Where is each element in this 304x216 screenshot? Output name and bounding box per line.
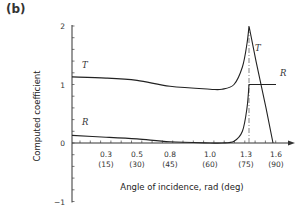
x-tick-label-rad: 0.3 bbox=[100, 150, 112, 159]
series-label-R: R bbox=[279, 68, 287, 78]
series-label-R: R bbox=[81, 117, 89, 127]
x-tick-label-deg: (45) bbox=[162, 160, 177, 169]
series-label-T: T bbox=[82, 60, 89, 70]
x-tick-label-rad: 1.6 bbox=[270, 150, 282, 159]
x-axis-arrow-icon bbox=[288, 141, 295, 146]
x-tick-label-rad: 1.0 bbox=[204, 150, 216, 159]
x-tick-label-deg: (75) bbox=[238, 160, 253, 169]
curves: TTRR bbox=[72, 26, 287, 143]
x-axis-title: Angle of incidence, rad (deg) bbox=[120, 182, 243, 192]
x-tick-label-deg: (60) bbox=[202, 160, 217, 169]
x-tick-label-deg: (90) bbox=[268, 160, 283, 169]
x-tick-label-rad: 0.8 bbox=[164, 150, 176, 159]
y-tick-label: −1 bbox=[54, 198, 65, 207]
y-tick-label: 2 bbox=[60, 22, 65, 31]
axes bbox=[72, 25, 295, 203]
y-tick-label: 0 bbox=[60, 139, 65, 148]
x-tick-label-deg: (15) bbox=[98, 160, 113, 169]
x-tick-label-rad: 0.5 bbox=[131, 150, 143, 159]
x-tick-label-deg: (30) bbox=[129, 160, 144, 169]
y-axis-title: Computed coefficient bbox=[32, 70, 42, 162]
series-R-curve bbox=[72, 85, 276, 144]
series-T-curve bbox=[72, 26, 273, 143]
chart-svg: 210−10.3(15)0.5(30)0.8(45)1.0(60)1.3(75)… bbox=[0, 0, 304, 216]
y-tick-label: 1 bbox=[60, 81, 65, 90]
x-tick-label-rad: 1.3 bbox=[240, 150, 252, 159]
series-label-T: T bbox=[255, 43, 262, 53]
